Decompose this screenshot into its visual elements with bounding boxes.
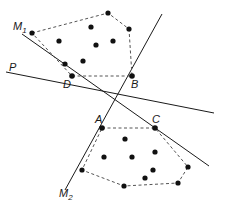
label-m1: M1 bbox=[13, 21, 27, 35]
data-point bbox=[62, 61, 67, 66]
line-m1 bbox=[22, 34, 209, 166]
data-point-c bbox=[152, 125, 158, 131]
label-d: D bbox=[63, 79, 71, 90]
data-point bbox=[79, 167, 84, 172]
label-a: A bbox=[95, 114, 102, 125]
diagram-canvas bbox=[0, 0, 231, 214]
lower-point-cloud bbox=[79, 125, 190, 188]
data-point bbox=[110, 38, 115, 43]
geometry-diagram: M1 M2 P A B C D bbox=[0, 0, 231, 214]
data-point bbox=[121, 183, 126, 188]
lower-hull bbox=[82, 128, 188, 186]
data-point bbox=[122, 136, 127, 141]
label-b: B bbox=[131, 79, 138, 90]
label-c: C bbox=[152, 114, 160, 125]
data-point bbox=[142, 175, 147, 180]
lines-group bbox=[6, 14, 214, 190]
data-point bbox=[185, 164, 190, 169]
data-point bbox=[29, 30, 34, 35]
label-p: P bbox=[9, 62, 16, 73]
data-point bbox=[152, 149, 157, 154]
data-point bbox=[88, 24, 93, 29]
data-point bbox=[93, 42, 98, 47]
hulls-group bbox=[32, 13, 188, 186]
upper-hull bbox=[32, 13, 132, 76]
data-point bbox=[129, 154, 134, 159]
data-point bbox=[56, 38, 61, 43]
data-point bbox=[126, 26, 131, 31]
label-m2: M2 bbox=[59, 188, 73, 202]
data-point bbox=[105, 10, 110, 15]
data-point bbox=[175, 180, 180, 185]
data-point bbox=[80, 58, 85, 63]
line-p bbox=[6, 72, 214, 113]
data-point-a bbox=[99, 125, 105, 131]
data-point bbox=[150, 167, 155, 172]
upper-point-cloud bbox=[29, 10, 134, 78]
data-point bbox=[101, 154, 106, 159]
